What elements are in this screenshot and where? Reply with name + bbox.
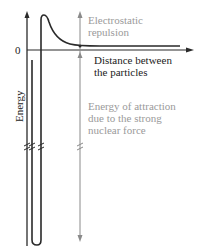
attraction-label-1: Energy of attraction <box>88 100 176 112</box>
zero-label: 0 <box>15 44 21 56</box>
x-axis-arrowhead <box>186 48 194 53</box>
y-axis-label: Energy <box>13 90 25 122</box>
zero-marker-arrowhead <box>78 52 83 58</box>
x-axis-label-1: Distance between <box>94 54 172 66</box>
attraction-arrowhead <box>78 235 83 242</box>
repulsion-label-2: repulsion <box>88 26 129 38</box>
x-axis-label-2: the particles <box>94 66 147 78</box>
repulsion-label-1: Electrostatic <box>88 14 143 26</box>
attraction-label-3: nuclear force <box>88 124 146 136</box>
curve-crossing-point <box>79 45 82 48</box>
y-axis-arrowhead <box>25 11 30 18</box>
attraction-label-2: due to the strong <box>88 112 162 124</box>
repulsion-arrowhead <box>78 11 83 18</box>
